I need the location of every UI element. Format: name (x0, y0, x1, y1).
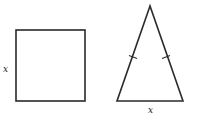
triangle-figure: x (117, 6, 183, 115)
isosceles-triangle (117, 6, 183, 101)
diagram-canvas: x x (0, 0, 199, 120)
triangle-base-label: x (148, 105, 153, 115)
square-side-label: x (3, 64, 8, 74)
square (16, 30, 85, 101)
square-figure: x (3, 30, 85, 101)
